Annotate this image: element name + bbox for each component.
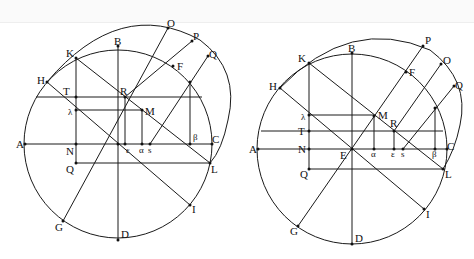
right-label-N: N	[298, 143, 306, 155]
left-label-G: G	[55, 221, 63, 233]
right-label-s: s	[401, 149, 405, 159]
left-label-P: P	[193, 30, 199, 42]
right-label-beta: β	[432, 149, 437, 159]
right-label-Q-top: Q	[455, 79, 463, 91]
right-label-E: E	[340, 149, 347, 161]
left-label-s: s	[148, 145, 152, 155]
left-label-B: B	[114, 35, 121, 47]
right-label-D: D	[355, 232, 363, 244]
left-label-Q-top: Q	[209, 48, 217, 60]
right-label-R: R	[390, 117, 398, 129]
left-label-T: T	[63, 85, 70, 97]
right-label-I: I	[426, 208, 430, 220]
left-label-lambda: λ	[68, 107, 73, 117]
left-label-alpha: α	[139, 145, 144, 155]
left-label-N: N	[66, 145, 74, 157]
right-label-epsilon: ε	[391, 149, 395, 159]
left-label-H: H	[37, 74, 45, 86]
right-figure: P O Q K B H F λ M R T A N E α ε s β C Q …	[249, 34, 463, 246]
right-line-GP	[298, 46, 423, 226]
right-line-RO	[394, 64, 441, 131]
left-label-epsilon: ε	[126, 145, 130, 155]
left-label-C: C	[212, 133, 219, 145]
left-outer-arc	[47, 25, 231, 163]
right-label-H: H	[269, 80, 277, 92]
left-label-K: K	[66, 47, 74, 59]
right-label-lambda: λ	[301, 112, 306, 122]
right-label-L: L	[445, 168, 452, 180]
right-label-B: B	[348, 42, 355, 54]
left-label-M: M	[145, 105, 155, 117]
right-label-Q: Q	[300, 168, 308, 180]
left-label-A: A	[16, 138, 24, 150]
right-line-KL	[309, 63, 443, 169]
left-line-GO	[63, 28, 168, 221]
left-label-Q: Q	[66, 163, 74, 175]
right-label-K: K	[298, 52, 306, 64]
right-label-O: O	[443, 54, 451, 66]
right-label-G: G	[290, 225, 298, 237]
right-label-M: M	[378, 109, 388, 121]
left-label-beta: β	[193, 132, 198, 142]
left-label-I: I	[192, 203, 196, 215]
left-label-L: L	[211, 163, 218, 175]
left-label-R: R	[120, 85, 128, 97]
right-label-F: F	[409, 66, 415, 78]
left-label-F: F	[177, 60, 183, 72]
right-label-T: T	[298, 125, 305, 137]
right-label-alpha: α	[371, 149, 376, 159]
right-label-A: A	[249, 143, 257, 155]
right-label-C: C	[447, 140, 454, 152]
right-label-P: P	[425, 34, 431, 46]
geometry-figures: O P Q K B H F T R λ M A N ε α s β C Q L …	[0, 0, 474, 259]
left-figure: O P Q K B H F T R λ M A N ε α s β C Q L …	[16, 17, 231, 242]
left-label-D: D	[121, 228, 129, 240]
left-label-O: O	[167, 17, 175, 29]
